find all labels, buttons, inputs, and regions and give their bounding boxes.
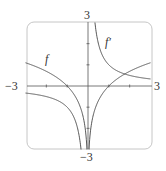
y-max-label: 3 (84, 8, 90, 22)
plot-frame (27, 22, 152, 149)
y-min-label: −3 (80, 150, 93, 164)
curve-f-right (89, 63, 150, 150)
curve-f-left (26, 63, 87, 150)
curve-label-fprime: f′ (105, 35, 111, 49)
curve-label-f: f (45, 52, 50, 66)
x-max-label: 3 (154, 79, 160, 93)
curve-fprime-right (95, 23, 151, 79)
x-min-label: −3 (5, 79, 18, 93)
chart: −3 3 3 −3 f f′ (0, 0, 166, 171)
curve-fprime-left (26, 93, 82, 149)
